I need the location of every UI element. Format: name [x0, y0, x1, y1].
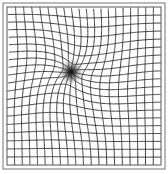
- amsler-grid-figure: [0, 0, 168, 174]
- grid-line: [7, 122, 161, 126]
- grid-line: [29, 7, 37, 165]
- dark-spot-scotoma: [58, 59, 84, 85]
- grid-line: [7, 157, 161, 158]
- outer-frame: [3, 3, 165, 169]
- grid-line: [14, 7, 18, 165]
- distorted-grid: [0, 0, 168, 174]
- grid-line: [22, 7, 27, 165]
- grid-lines: [7, 7, 161, 165]
- grid-line: [57, 8, 72, 165]
- grid-line: [7, 112, 161, 118]
- grid-line: [69, 9, 81, 165]
- grid-line: [63, 8, 74, 164]
